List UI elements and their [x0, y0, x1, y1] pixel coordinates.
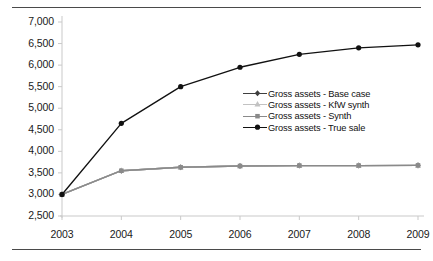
- x-tick-label: 2005: [156, 228, 206, 240]
- x-tick-label: 2007: [274, 228, 324, 240]
- legend-marker-diamond-icon: [243, 88, 267, 99]
- y-tick-label: 4,000: [8, 144, 54, 156]
- legend-item-label: Gross assets - Synth: [268, 111, 351, 121]
- y-tick-label: 5,000: [8, 101, 54, 113]
- legend-item[interactable]: Gross assets - Base case: [243, 88, 393, 99]
- x-tick-label: 2008: [334, 228, 384, 240]
- y-tick-label: 5,500: [8, 80, 54, 92]
- x-tick-label: 2003: [37, 228, 87, 240]
- legend-item-label: Gross assets - True sale: [268, 123, 365, 133]
- legend-item-label: Gross assets - KfW synth: [268, 100, 369, 110]
- legend-marker-square-icon: [243, 111, 267, 122]
- y-tick-label: 6,500: [8, 37, 54, 49]
- legend-item-label: Gross assets - Base case: [268, 89, 370, 99]
- y-tick-label: 3,500: [8, 166, 54, 178]
- y-tick-label: 6,000: [8, 58, 54, 70]
- x-tick-label: 2006: [215, 228, 265, 240]
- legend-marker-circle-icon: [243, 122, 267, 133]
- chart-figure: 7,0006,5006,0005,5005,0004,5004,0003,500…: [0, 0, 433, 261]
- chart-legend: Gross assets - Base caseGross assets - K…: [243, 88, 393, 133]
- y-tick-label: 3,000: [8, 187, 54, 199]
- legend-item[interactable]: Gross assets - Synth: [243, 111, 393, 122]
- x-tick-label: 2004: [96, 228, 146, 240]
- y-tick-label: 7,000: [8, 15, 54, 27]
- legend-marker-triangle-icon: [243, 99, 267, 110]
- y-tick-label: 2,500: [8, 209, 54, 221]
- legend-item[interactable]: Gross assets - True sale: [243, 122, 393, 133]
- x-tick-label: 2009: [393, 228, 433, 240]
- legend-item[interactable]: Gross assets - KfW synth: [243, 99, 393, 110]
- y-tick-label: 4,500: [8, 123, 54, 135]
- series-2: [60, 163, 421, 197]
